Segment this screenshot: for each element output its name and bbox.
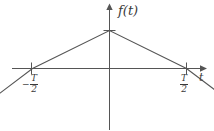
x-axis-label: t [199,72,203,83]
fraction-denominator: 2 [180,85,188,94]
fraction-numerator: T [30,74,38,83]
xtick-label-t-over-2: T 2 [180,74,188,94]
y-axis-arrowhead [106,4,112,11]
y-axis-label: f(t) [118,4,138,17]
triangular-wave-figure: f(t) t − T 2 T 2 [0,0,214,130]
y-axis [106,4,112,131]
fraction-t-over-2-left: T 2 [30,74,38,94]
minus-sign: − [22,80,30,89]
fraction-t-over-2-right: T 2 [180,74,188,94]
fraction-denominator: 2 [30,85,38,94]
fraction-numerator: T [180,74,188,83]
xtick-label-neg-t-over-2: − T 2 [22,74,38,94]
plot-area [0,0,214,130]
